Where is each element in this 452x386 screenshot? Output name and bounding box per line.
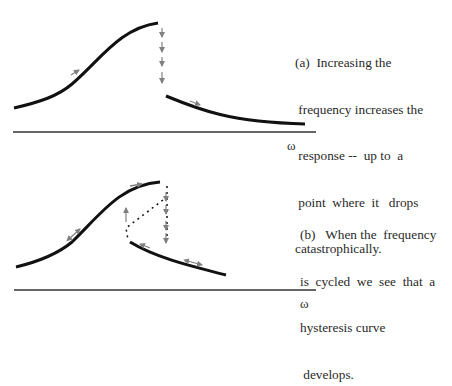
direction-arrow-icon (71, 70, 79, 75)
response-curve-falling (166, 96, 305, 124)
caption-line: develops. (300, 367, 436, 383)
response-curve-rising (14, 23, 158, 108)
axis-label-omega-a: ω (287, 138, 296, 154)
panel-b (14, 182, 316, 290)
panel-a (13, 23, 316, 132)
response-curve-rising (16, 182, 160, 267)
caption-line: (a) Increasing the (295, 55, 423, 71)
axis-label-omega-b: ω (300, 296, 309, 312)
hysteresis-dotted-path (126, 186, 167, 240)
caption-b: (b) When the frequency is cycled we see … (300, 196, 436, 386)
caption-line: frequency increases the (295, 102, 423, 118)
caption-line: is cycled we see that a (300, 274, 436, 290)
caption-line: response -- up to a (295, 148, 423, 164)
response-curve-falling (130, 242, 226, 275)
caption-line: hysteresis curve (300, 320, 436, 336)
caption-line: (b) When the frequency (300, 227, 436, 243)
